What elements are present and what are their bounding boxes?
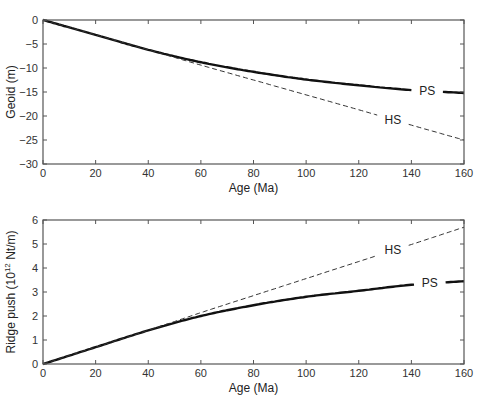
- y-tick-label: −5: [25, 38, 38, 50]
- y-axis-label: Geoid (m): [4, 65, 18, 118]
- x-tick-label: 100: [297, 167, 315, 179]
- series-line-hs: [409, 227, 464, 245]
- y-tick-label: −15: [19, 86, 38, 98]
- x-tick-label: 40: [142, 167, 154, 179]
- x-tick-label: 140: [402, 367, 420, 379]
- x-tick-label: 60: [195, 167, 207, 179]
- x-tick-label: 120: [350, 167, 368, 179]
- series-line-hs: [409, 124, 464, 140]
- series-label-hs: HS: [385, 243, 402, 257]
- x-tick-label: 60: [195, 367, 207, 379]
- y-tick-label: 6: [32, 214, 38, 226]
- series-line-hs: [43, 20, 377, 115]
- x-tick-label: 0: [40, 167, 46, 179]
- ridge-push-chart: PSHS0204060801001201401600123456Age (Ma)…: [3, 214, 473, 395]
- geoid-chart: PSHS0204060801001201401600−5−10−15−20−25…: [4, 14, 473, 195]
- y-tick-label: 4: [32, 262, 38, 274]
- y-tick-label: 0: [32, 14, 38, 26]
- x-tick-label: 80: [247, 167, 259, 179]
- y-tick-label: 0: [32, 358, 38, 370]
- series-label-ps: PS: [419, 84, 435, 98]
- y-tick-label: 3: [32, 286, 38, 298]
- x-tick-label: 120: [350, 367, 368, 379]
- axes-frame: [43, 220, 464, 364]
- axes-frame: [43, 20, 464, 164]
- y-tick-label: 5: [32, 238, 38, 250]
- y-axis-label: Ridge push (1012 Nt/m): [3, 231, 18, 354]
- x-tick-label: 160: [455, 367, 473, 379]
- y-tick-label: −25: [19, 134, 38, 146]
- y-tick-label: 1: [32, 334, 38, 346]
- x-tick-label: 20: [90, 367, 102, 379]
- y-tick-label: 2: [32, 310, 38, 322]
- series-line-ps: [446, 281, 464, 282]
- x-tick-label: 160: [455, 167, 473, 179]
- x-tick-label: 20: [90, 167, 102, 179]
- x-tick-label: 80: [247, 367, 259, 379]
- series-line-hs: [43, 256, 377, 364]
- x-axis-label: Age (Ma): [229, 181, 278, 195]
- series-label-ps: PS: [422, 276, 438, 290]
- x-tick-label: 140: [402, 167, 420, 179]
- x-axis-label: Age (Ma): [229, 381, 278, 395]
- x-tick-label: 100: [297, 367, 315, 379]
- y-tick-label: −10: [19, 62, 38, 74]
- y-tick-label: −20: [19, 110, 38, 122]
- series-label-hs: HS: [385, 113, 402, 127]
- x-tick-label: 40: [142, 367, 154, 379]
- x-tick-label: 0: [40, 367, 46, 379]
- series-line-ps: [43, 285, 414, 364]
- figure: PSHS0204060801001201401600−5−10−15−20−25…: [0, 0, 481, 408]
- series-line-ps: [43, 20, 411, 90]
- y-tick-label: −30: [19, 158, 38, 170]
